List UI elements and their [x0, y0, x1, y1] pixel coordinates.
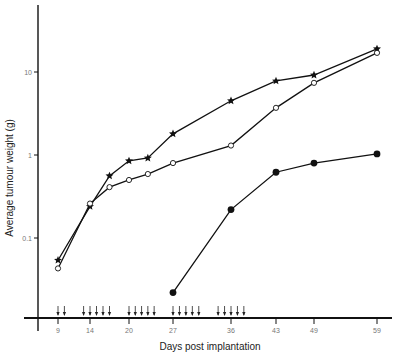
- down-arrow-icon: [171, 306, 174, 316]
- x-tick-label: 59: [373, 327, 381, 334]
- down-arrow-icon: [127, 306, 130, 316]
- filled-circle-marker-icon: [228, 206, 235, 213]
- down-arrow-icon: [197, 306, 200, 316]
- open-circle-marker-icon: [145, 171, 150, 176]
- filled-circle-marker-icon: [170, 289, 177, 296]
- tumour-growth-chart: 0.1110 914202736434959 Average tumour we…: [0, 0, 403, 362]
- x-ticks: 914202736434959: [56, 318, 381, 334]
- y-tick-label: 1: [28, 152, 32, 159]
- down-arrow-icon: [229, 306, 232, 316]
- series-star: [54, 45, 381, 264]
- down-arrow-icon: [63, 306, 66, 316]
- x-tick-label: 43: [272, 327, 280, 334]
- open-circle-marker-icon: [107, 185, 112, 190]
- down-arrow-icon: [153, 306, 156, 316]
- treatment-arrows: [56, 306, 245, 316]
- down-arrow-icon: [134, 306, 137, 316]
- down-arrow-icon: [88, 306, 91, 316]
- y-ticks: 0.1110: [22, 69, 38, 242]
- data-series: [54, 45, 381, 296]
- open-circle-marker-icon: [228, 143, 233, 148]
- x-tick-label: 36: [227, 327, 235, 334]
- down-arrow-icon: [223, 306, 226, 316]
- filled-circle-marker-icon: [273, 169, 280, 176]
- open-circle-marker-icon: [87, 201, 92, 206]
- x-tick-label: 9: [56, 327, 60, 334]
- star-marker-icon: [272, 77, 280, 85]
- star-marker-icon: [106, 172, 114, 180]
- x-tick-label: 14: [86, 327, 94, 334]
- open-circle-marker-icon: [55, 266, 60, 271]
- x-tick-label: 20: [125, 327, 133, 334]
- series-filled-circle: [170, 151, 381, 296]
- down-arrow-icon: [184, 306, 187, 316]
- down-arrow-icon: [95, 306, 98, 316]
- x-axis-title: Days post implantation: [159, 341, 260, 352]
- open-circle-marker-icon: [273, 105, 278, 110]
- down-arrow-icon: [108, 306, 111, 316]
- star-marker-icon: [310, 71, 318, 79]
- filled-circle-marker-icon: [374, 151, 381, 158]
- down-arrow-icon: [236, 306, 239, 316]
- down-arrow-icon: [101, 306, 104, 316]
- open-circle-marker-icon: [311, 80, 316, 85]
- down-arrow-icon: [191, 306, 194, 316]
- x-tick-label: 49: [310, 327, 318, 334]
- y-tick-label: 0.1: [22, 235, 32, 242]
- open-circle-marker-icon: [374, 50, 379, 55]
- down-arrow-icon: [56, 306, 59, 316]
- down-arrow-icon: [82, 306, 85, 316]
- open-circle-marker-icon: [126, 177, 131, 182]
- down-arrow-icon: [146, 306, 149, 316]
- y-axis-title: Average tumour weight (g): [4, 119, 15, 237]
- x-tick-label: 27: [169, 327, 177, 334]
- down-arrow-icon: [242, 306, 245, 316]
- down-arrow-icon: [217, 306, 220, 316]
- filled-circle-marker-icon: [311, 160, 318, 167]
- axes: [24, 5, 392, 331]
- open-circle-marker-icon: [170, 160, 175, 165]
- down-arrow-icon: [140, 306, 143, 316]
- down-arrow-icon: [178, 306, 181, 316]
- y-tick-label: 10: [24, 69, 32, 76]
